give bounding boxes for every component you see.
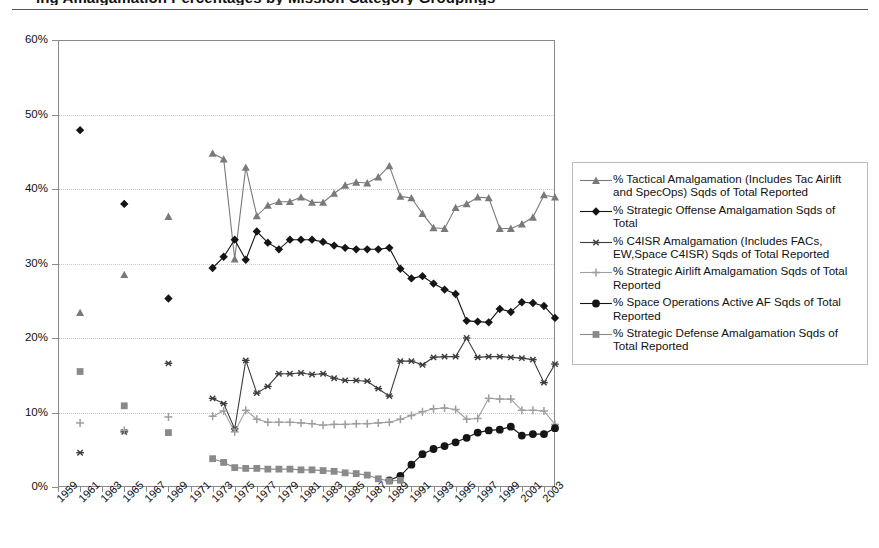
data-point-diamond — [76, 126, 84, 134]
data-point-triangle — [463, 200, 471, 207]
data-point-circle — [452, 438, 460, 446]
data-point-diamond — [385, 244, 393, 252]
data-point-asterisk — [253, 390, 261, 395]
legend-item[interactable]: % Strategic Defense Amalgamation Sqds of… — [579, 326, 861, 353]
data-point-plus — [474, 414, 482, 422]
data-point-asterisk — [165, 361, 173, 366]
series-triangle — [76, 149, 559, 316]
chart-legend: % Tactical Amalgamation (Includes Tac Ai… — [572, 162, 868, 365]
data-point-asterisk — [430, 355, 438, 360]
data-point-asterisk — [220, 401, 228, 406]
data-point-asterisk — [408, 358, 416, 363]
data-point-triangle — [231, 255, 239, 262]
data-point-asterisk — [474, 355, 482, 360]
data-point-asterisk — [529, 357, 537, 362]
data-point-triangle — [242, 163, 250, 170]
data-point-asterisk — [452, 354, 460, 359]
data-point-triangle — [518, 220, 526, 227]
data-point-triangle — [220, 155, 228, 162]
data-point-plus — [485, 394, 493, 402]
data-point-triangle — [76, 309, 84, 316]
data-point-square — [309, 466, 316, 473]
data-point-plus — [496, 395, 504, 403]
title-divider — [12, 9, 868, 10]
data-point-square — [287, 466, 294, 473]
legend-item-label: % Tactical Amalgamation (Includes Tac Ai… — [613, 172, 861, 199]
y-axis-tick-label: 50% — [2, 109, 48, 120]
data-point-square — [331, 468, 338, 475]
data-point-plus — [286, 418, 294, 426]
data-point-plus — [385, 418, 393, 426]
legend-marker-square-icon — [579, 327, 613, 342]
data-point-square — [593, 331, 600, 338]
legend-item[interactable]: % C4ISR Amalgamation (Includes FACs, EW,… — [579, 234, 861, 261]
y-axis-tick-label: 30% — [2, 258, 48, 269]
data-point-triangle — [297, 193, 305, 200]
data-point-asterisk — [319, 371, 327, 376]
data-point-asterisk — [209, 396, 217, 401]
data-point-circle — [592, 300, 600, 308]
data-point-diamond — [418, 272, 426, 280]
data-point-triangle — [209, 149, 217, 156]
data-point-asterisk — [286, 371, 294, 376]
data-point-triangle — [540, 191, 548, 198]
data-point-square — [77, 368, 84, 375]
legend-item-label: % Strategic Airlift Amalgamation Sqds of… — [613, 264, 861, 291]
data-point-asterisk — [275, 371, 283, 376]
data-point-square — [364, 472, 371, 479]
legend-item[interactable]: % Space Operations Active AF Sqds of Tot… — [579, 295, 861, 322]
legend-marker-diamond-icon — [579, 204, 613, 219]
data-point-asterisk — [341, 378, 349, 383]
data-point-circle — [408, 461, 416, 469]
data-point-diamond — [352, 245, 360, 253]
legend-marker-plus-icon — [579, 265, 613, 280]
data-point-triangle — [529, 213, 537, 220]
legend-item[interactable]: % Tactical Amalgamation (Includes Tac Ai… — [579, 172, 861, 199]
series-circle — [385, 423, 558, 484]
data-point-plus — [164, 413, 172, 421]
data-point-asterisk — [374, 386, 382, 391]
data-point-diamond — [429, 279, 437, 287]
data-point-square — [209, 455, 216, 462]
legend-item-label: % Space Operations Active AF Sqds of Tot… — [613, 295, 861, 322]
data-point-plus — [430, 405, 438, 413]
data-point-circle — [474, 429, 482, 437]
data-point-square — [320, 467, 327, 474]
series-square — [77, 368, 404, 484]
data-point-square — [165, 429, 172, 436]
data-point-circle — [529, 430, 537, 438]
data-point-asterisk — [485, 354, 493, 359]
y-axis-tick-label: 0% — [2, 481, 48, 492]
data-point-plus — [264, 418, 272, 426]
data-point-asterisk — [363, 379, 371, 384]
data-point-square — [231, 464, 238, 471]
data-point-plus — [275, 418, 283, 426]
y-axis-tick-label: 60% — [2, 34, 48, 45]
data-point-circle — [507, 423, 515, 431]
data-point-asterisk — [330, 376, 338, 381]
data-point-circle — [540, 430, 548, 438]
data-point-diamond — [440, 285, 448, 293]
data-point-square — [386, 478, 393, 485]
page-title-text: ing Amalgamation Percentages by Mission … — [36, 0, 846, 5]
legend-item-label: % C4ISR Amalgamation (Includes FACs, EW,… — [613, 234, 861, 261]
y-axis-tick-label: 40% — [2, 183, 48, 194]
legend-item[interactable]: % Strategic Offense Amalgamation Sqds of… — [579, 203, 861, 230]
legend-item[interactable]: % Strategic Airlift Amalgamation Sqds of… — [579, 264, 861, 291]
data-point-asterisk — [76, 450, 84, 455]
data-point-plus — [418, 408, 426, 416]
data-point-triangle — [264, 201, 272, 208]
legend-marker-circle-icon — [579, 296, 613, 311]
data-point-asterisk — [518, 355, 526, 360]
data-point-plus — [396, 415, 404, 423]
data-point-asterisk — [352, 378, 360, 383]
data-point-plus — [341, 420, 349, 428]
data-point-plus — [209, 412, 217, 420]
data-point-square — [253, 465, 260, 472]
data-point-circle — [496, 426, 504, 434]
data-point-diamond — [592, 207, 600, 215]
data-point-square — [242, 465, 249, 472]
data-point-diamond — [120, 200, 128, 208]
data-point-asterisk — [551, 361, 559, 366]
legend-item-label: % Strategic Defense Amalgamation Sqds of… — [613, 326, 861, 353]
